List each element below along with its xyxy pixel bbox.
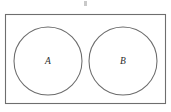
venn-diagram-figure: A B <box>0 0 171 112</box>
set-b-label: B <box>120 56 126 66</box>
venn-diagram-canvas: A B <box>0 0 171 112</box>
top-tick-mark <box>84 1 87 6</box>
set-a-label: A <box>44 56 51 66</box>
